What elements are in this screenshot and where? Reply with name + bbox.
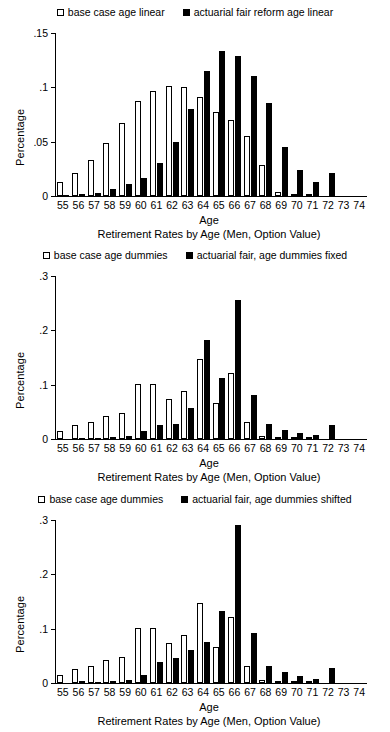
bar — [306, 681, 312, 683]
bar — [135, 628, 141, 683]
x-axis-line — [55, 196, 367, 197]
y-tick-label: .15 — [15, 27, 48, 39]
bar — [306, 437, 312, 439]
bar — [57, 182, 63, 196]
bar — [95, 438, 101, 439]
y-tick-label: .2 — [15, 568, 48, 580]
y-tick-label: .1 — [15, 623, 48, 635]
bar-series-container — [55, 33, 367, 196]
legend-swatch-open-icon — [57, 9, 64, 16]
bar-group — [117, 276, 133, 439]
bar-group — [227, 276, 243, 439]
bar-group — [180, 276, 196, 439]
chart-panel: base case age dummiesactuarial fair, age… — [0, 243, 390, 486]
legend-entry[interactable]: actuarial fair, age dummies fixed — [186, 249, 348, 261]
bar — [135, 101, 141, 196]
bar — [297, 676, 303, 683]
bar — [329, 173, 335, 196]
bar — [235, 300, 241, 439]
bar-group — [102, 520, 118, 683]
bar-group — [164, 276, 180, 439]
bar — [291, 437, 297, 439]
y-tick-label: .3 — [15, 514, 48, 526]
bar — [204, 340, 210, 439]
legend-label: actuarial fair, age dummies shifted — [192, 493, 351, 505]
chart-legend: base case age dummiesactuarial fair, age… — [0, 491, 390, 507]
y-tick-label: .05 — [15, 136, 48, 148]
bar-group — [336, 520, 352, 683]
bar-group — [305, 276, 321, 439]
bar — [251, 395, 257, 439]
bar — [72, 425, 78, 439]
bar — [63, 195, 69, 196]
bar — [244, 136, 250, 196]
bar — [126, 436, 132, 439]
bar — [266, 666, 272, 683]
bar — [219, 611, 225, 683]
bar — [266, 424, 272, 439]
bar — [126, 184, 132, 196]
bar — [119, 657, 125, 683]
bar — [228, 617, 234, 683]
legend-entry[interactable]: actuarial fair reform age linear — [183, 6, 333, 18]
legend-swatch-filled-icon — [181, 496, 188, 503]
legend-swatch-filled-icon — [186, 252, 193, 259]
bar — [181, 87, 187, 196]
bar — [329, 668, 335, 683]
bar-group — [55, 33, 71, 196]
bar-group — [133, 520, 149, 683]
bar — [141, 431, 147, 439]
bar — [228, 120, 234, 196]
bar — [173, 424, 179, 439]
bar-group — [164, 520, 180, 683]
bar — [157, 425, 163, 439]
legend-entry[interactable]: base case age dummies — [38, 493, 163, 505]
bar — [79, 194, 85, 196]
x-tick-label: 74 — [350, 442, 368, 454]
bar-group — [71, 520, 87, 683]
bar-group — [133, 33, 149, 196]
y-tick-mark — [51, 683, 55, 684]
bar — [275, 681, 281, 683]
legend-label: base case age dummies — [49, 493, 163, 505]
bar — [188, 650, 194, 683]
legend-label: actuarial fair reform age linear — [194, 6, 333, 18]
chart-legend: base case age linearactuarial fair refor… — [0, 4, 390, 20]
bar-group — [149, 520, 165, 683]
chart-legend: base case age dummiesactuarial fair, age… — [0, 247, 390, 263]
bar-group — [351, 520, 367, 683]
y-tick-label: 0 — [15, 190, 48, 202]
bar — [228, 373, 234, 439]
bar-group — [289, 33, 305, 196]
legend-entry[interactable]: base case age dummies — [43, 249, 168, 261]
bar — [197, 359, 203, 439]
bar — [166, 86, 172, 196]
chart-caption: Retirement Rates by Age (Men, Option Val… — [14, 715, 390, 727]
bar-group — [305, 33, 321, 196]
chart-panel: base case age dummiesactuarial fair, age… — [0, 487, 390, 730]
bar — [291, 194, 297, 196]
bar — [282, 147, 288, 196]
y-tick-label: .2 — [15, 324, 48, 336]
bar-group — [86, 276, 102, 439]
bar — [141, 675, 147, 683]
legend-label: actuarial fair, age dummies fixed — [197, 249, 348, 261]
bar-group — [133, 276, 149, 439]
legend-entry[interactable]: base case age linear — [57, 6, 165, 18]
bar — [141, 178, 147, 196]
bar — [204, 71, 210, 196]
bar — [197, 603, 203, 683]
bar — [266, 103, 272, 196]
bar — [188, 109, 194, 196]
bar — [88, 160, 94, 196]
legend-entry[interactable]: actuarial fair, age dummies shifted — [181, 493, 351, 505]
bar — [213, 647, 219, 683]
bar — [306, 194, 312, 196]
legend-swatch-open-icon — [43, 252, 50, 259]
bar-group — [71, 276, 87, 439]
bar — [119, 413, 125, 439]
chart-caption: Retirement Rates by Age (Men, Option Val… — [14, 228, 390, 240]
bar — [88, 422, 94, 439]
bar — [282, 672, 288, 683]
bar-group — [289, 520, 305, 683]
